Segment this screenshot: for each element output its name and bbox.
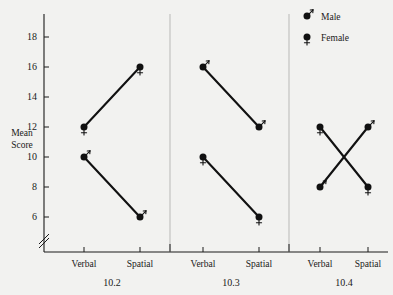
venus-symbol: [365, 184, 372, 196]
x-category-label: Spatial: [127, 259, 154, 269]
chart-background: [0, 0, 393, 295]
chart-canvas: 681012141618 VerbalSpatialVerbalSpatialV…: [0, 0, 393, 295]
x-category-label: Verbal: [191, 259, 216, 269]
panel-label: 10.4: [335, 277, 353, 288]
venus-symbol: [137, 64, 144, 76]
y-axis-title-line-1: Mean: [11, 128, 33, 138]
panel-label: 10.3: [222, 277, 240, 288]
x-category-label: Spatial: [246, 259, 273, 269]
y-tick-label: 6: [32, 211, 37, 222]
y-tick-label: 10: [27, 151, 37, 162]
y-tick-label: 8: [32, 181, 37, 192]
x-category-label: Spatial: [355, 259, 382, 269]
legend-label: Female: [321, 33, 349, 43]
legend-label: Male: [321, 12, 341, 22]
venus-symbol: [256, 214, 263, 226]
venus-symbol: [200, 154, 207, 166]
venus-symbol: [317, 124, 324, 136]
y-tick-label: 16: [27, 61, 37, 72]
y-tick-label: 14: [27, 91, 37, 102]
y-tick-label: 18: [27, 31, 37, 42]
x-category-label: Verbal: [308, 259, 333, 269]
chart-figure: 681012141618 VerbalSpatialVerbalSpatialV…: [0, 0, 393, 295]
venus-symbol: [304, 34, 311, 46]
panel-label: 10.2: [103, 277, 121, 288]
y-axis-title-line-2: Score: [11, 140, 33, 150]
x-category-label: Verbal: [72, 259, 97, 269]
venus-symbol: [81, 124, 88, 136]
